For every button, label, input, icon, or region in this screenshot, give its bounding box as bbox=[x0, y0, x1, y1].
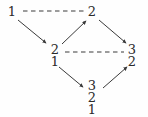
node-2: 2 bbox=[88, 5, 96, 17]
node-1-entry-0: 1 bbox=[8, 5, 16, 17]
arrow-edge-321-to-32 bbox=[103, 67, 127, 88]
dashed-edges-group bbox=[23, 11, 124, 52]
node-3-2-1-entry-2: 1 bbox=[88, 103, 96, 115]
arrow-edge-1-to-21 bbox=[18, 20, 46, 43]
node-2-entry-0: 2 bbox=[88, 5, 96, 17]
diagram-canvas: 122132321 bbox=[0, 0, 148, 117]
node-3-2-1: 321 bbox=[88, 79, 96, 115]
arrow-edges-group bbox=[18, 20, 127, 88]
arrow-edge-2-to-32 bbox=[99, 20, 126, 43]
arrow-edge-21-to-2 bbox=[62, 21, 86, 44]
node-3-2: 32 bbox=[128, 43, 136, 67]
node-2-1-entry-1: 1 bbox=[51, 55, 59, 67]
node-3-2-entry-1: 2 bbox=[128, 55, 136, 67]
node-2-1: 21 bbox=[51, 43, 59, 67]
node-1: 1 bbox=[8, 5, 16, 17]
arrow-edge-21-to-321 bbox=[59, 67, 83, 87]
diagram-edges-layer bbox=[0, 0, 148, 117]
